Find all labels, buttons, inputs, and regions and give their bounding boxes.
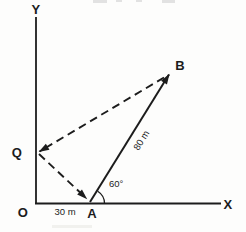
angle-label: 60° (109, 178, 124, 189)
y-axis-label: Y (32, 2, 41, 17)
x-axis-label: X (224, 197, 233, 212)
geometry-diagram: Y X O A B Q 30 m 60° 80 m (0, 0, 246, 232)
point-b-label: B (175, 58, 185, 73)
segment-ab (90, 75, 169, 203)
scan-artifact (52, 225, 92, 228)
angle-arc-a (98, 191, 105, 203)
point-a-label: A (87, 206, 97, 221)
origin-label: O (18, 205, 28, 220)
segment-qa-dashed (39, 154, 87, 199)
scan-artifact (93, 0, 175, 3)
oa-distance-label: 30 m (54, 206, 75, 217)
point-q-label: Q (12, 145, 22, 160)
figure-canvas: Y X O A B Q 30 m 60° 80 m (0, 0, 246, 232)
